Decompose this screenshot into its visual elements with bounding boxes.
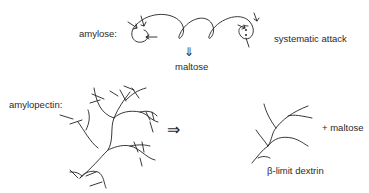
diagram-canvas: amylose: systematic attack ⇓ maltose amy…: [0, 0, 369, 193]
amylopectin-branch-drawing: [0, 0, 369, 193]
